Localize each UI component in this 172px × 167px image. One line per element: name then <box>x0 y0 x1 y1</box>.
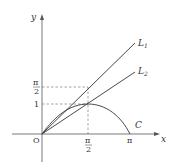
diagram: y x O π 2 π 1 π 2 L1 L2 C <box>0 0 172 167</box>
L2-label: L2 <box>137 66 148 77</box>
x-tick-pi-half-den: 2 <box>86 145 91 154</box>
y-tick-pi-half-den: 2 <box>34 87 39 96</box>
y-tick-one: 1 <box>34 100 39 109</box>
y-axis-label: y <box>30 12 37 22</box>
x-tick-pi-half-num: π <box>85 136 90 145</box>
y-tick-pi-half-num: π <box>33 78 38 87</box>
origin-label: O <box>33 136 40 145</box>
y-axis-arrow-icon <box>40 14 44 20</box>
curve-C <box>42 104 130 134</box>
x-tick-pi: π <box>127 136 132 145</box>
line-L2 <box>42 72 135 134</box>
L1-label: L1 <box>137 38 148 49</box>
C-label: C <box>135 120 142 130</box>
x-axis-arrow-icon <box>154 132 160 136</box>
x-axis-label: x <box>161 134 166 144</box>
